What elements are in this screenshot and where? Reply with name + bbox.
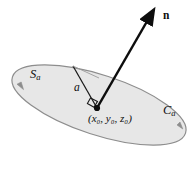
radius-label: a (74, 82, 80, 94)
curve-label-subscript: a (171, 108, 175, 118)
surface-label: Sa (30, 68, 41, 81)
center-point-label: (x₀, y₀, z₀) (88, 113, 132, 124)
surface-label-subscript: a (36, 72, 40, 82)
normal-vector-label: n (163, 10, 169, 22)
center-point-dot (94, 105, 100, 111)
curve-label: Ca (163, 104, 176, 117)
diagram-canvas (0, 0, 194, 170)
figure-container: Sa Ca a n (x₀, y₀, z₀) (0, 0, 194, 170)
